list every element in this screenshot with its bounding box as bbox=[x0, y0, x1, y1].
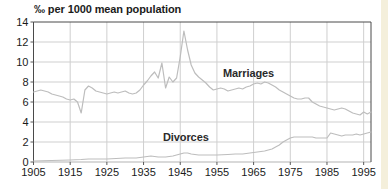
series-label-divorces: Divorces bbox=[163, 131, 209, 143]
y-tick-label: 4 bbox=[22, 116, 28, 128]
y-tick-label: 10 bbox=[16, 56, 28, 68]
x-tick-label: 1975 bbox=[278, 166, 302, 178]
x-tick-label: 1985 bbox=[315, 166, 339, 178]
y-tick-label: 6 bbox=[22, 96, 28, 108]
x-tick-label: 1965 bbox=[241, 166, 265, 178]
x-tick-label: 1995 bbox=[351, 166, 375, 178]
y-tick-label: 14 bbox=[16, 16, 28, 28]
x-tick-label: 1955 bbox=[205, 166, 229, 178]
y-tick-label: 8 bbox=[22, 76, 28, 88]
plot-area: 0246810121419051915192519351945195519651… bbox=[0, 0, 388, 189]
x-tick-label: 1925 bbox=[95, 166, 119, 178]
x-tick-label: 1905 bbox=[21, 166, 45, 178]
x-tick-label: 1945 bbox=[168, 166, 192, 178]
series-label-marriages: Marriages bbox=[223, 67, 274, 79]
x-tick-label: 1935 bbox=[131, 166, 155, 178]
x-tick-label: 1915 bbox=[58, 166, 82, 178]
right-edge-strip bbox=[381, 0, 388, 189]
y-tick-label: 12 bbox=[16, 36, 28, 48]
y-tick-label: 2 bbox=[22, 136, 28, 148]
statistics-chart-panel: ‰ per 1000 mean population 0246810121419… bbox=[0, 0, 388, 189]
